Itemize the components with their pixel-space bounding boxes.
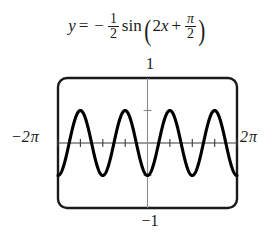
x-max-label: 2π	[240, 128, 257, 146]
x-min-label-number: −2	[11, 128, 30, 145]
coefficient-fraction-one-half: 12	[108, 12, 119, 42]
graph-area: 1 −1 −2π 2π	[0, 55, 275, 236]
x-min-label: −2π	[11, 128, 39, 146]
equation-equals-sign: =	[76, 16, 92, 35]
argument-coefficient: 2	[152, 16, 161, 35]
open-paren-icon: (	[144, 22, 151, 38]
plot-svg	[0, 55, 275, 236]
equation-negative-sign: −	[91, 16, 107, 35]
coefficient-numerator: 1	[108, 12, 119, 26]
argument-plus-sign: +	[169, 16, 185, 35]
close-paren-icon: )	[198, 22, 205, 38]
phase-denominator: 2	[185, 26, 196, 41]
argument-variable: x	[161, 16, 169, 35]
equation-expression: y=−12sin(2x+π2)	[0, 12, 275, 42]
phase-fraction-pi-over-two: π2	[185, 12, 196, 42]
y-max-label: 1	[133, 55, 167, 73]
figure-container: y=−12sin(2x+π2)	[0, 0, 275, 236]
x-min-label-pi: π	[30, 128, 39, 145]
sine-function-name: sin	[120, 16, 143, 35]
phase-numerator-pi: π	[185, 12, 196, 26]
coefficient-denominator: 2	[108, 26, 119, 41]
x-max-label-pi: π	[248, 128, 257, 145]
x-max-label-number: 2	[240, 128, 248, 145]
equation-lhs-variable: y	[68, 16, 76, 35]
y-min-label: −1	[131, 212, 169, 230]
